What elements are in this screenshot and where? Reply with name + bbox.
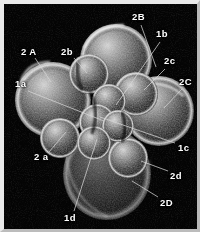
label-2a: 2 a bbox=[34, 152, 48, 162]
label-2c: 2c bbox=[164, 56, 175, 66]
label-2C: 2C bbox=[179, 77, 192, 87]
label-1c: 1c bbox=[178, 143, 189, 153]
label-1b: 1b bbox=[156, 29, 168, 39]
label-1a: 1a bbox=[15, 79, 26, 89]
label-1d: 1d bbox=[64, 213, 76, 223]
figure-panel: 2B1b2b2 A2c2C1a1c2 a2d2D1d bbox=[0, 0, 200, 232]
label-2A: 2 A bbox=[21, 47, 37, 57]
label-2b: 2b bbox=[61, 47, 73, 57]
micrograph-plate: 2B1b2b2 A2c2C1a1c2 a2d2D1d bbox=[4, 4, 197, 229]
electron-micrograph-image bbox=[4, 4, 197, 229]
label-2d: 2d bbox=[170, 171, 182, 181]
label-2D: 2D bbox=[160, 198, 173, 208]
label-2B: 2B bbox=[132, 12, 145, 22]
